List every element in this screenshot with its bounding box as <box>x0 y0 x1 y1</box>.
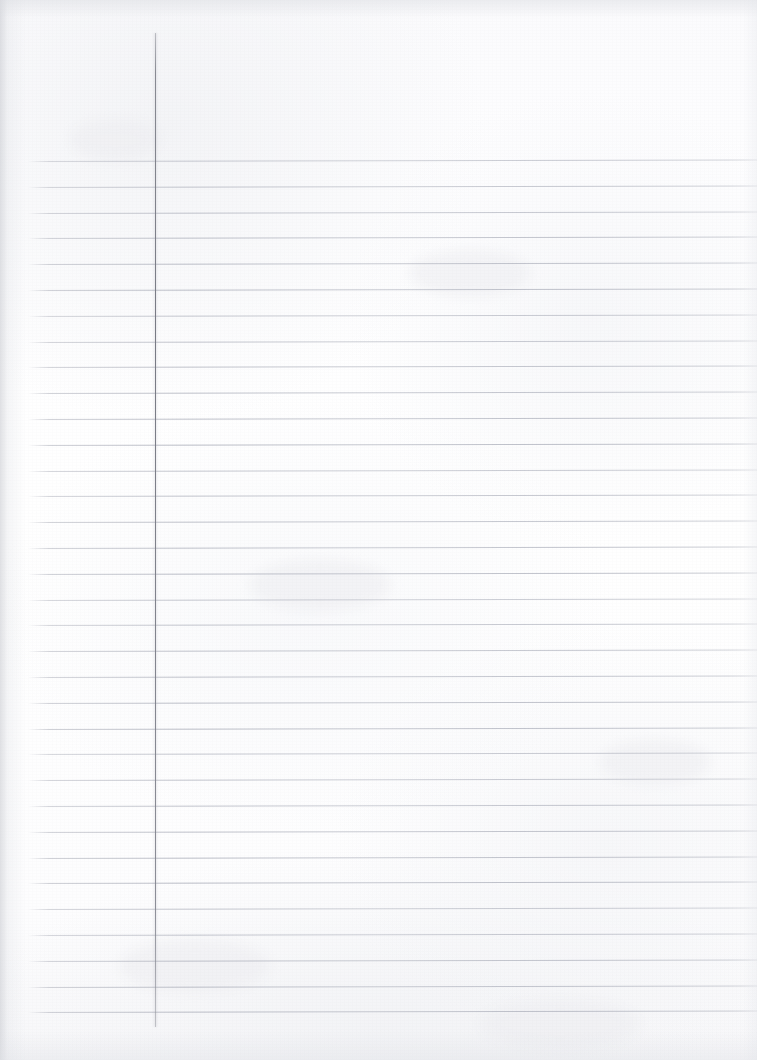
scanned-page <box>0 0 757 1060</box>
paper-background <box>0 0 757 1060</box>
